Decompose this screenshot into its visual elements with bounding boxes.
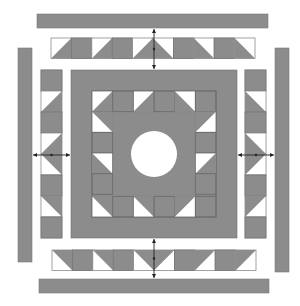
arrowhead-icon bbox=[152, 29, 156, 33]
half-square-triangle bbox=[153, 38, 173, 58]
arrowhead-icon bbox=[238, 153, 242, 157]
arrowhead-icon bbox=[66, 153, 70, 157]
half-square-triangle bbox=[133, 91, 154, 112]
join-point-icon bbox=[153, 257, 155, 259]
half-square-triangle bbox=[245, 133, 266, 154]
half-square-triangle bbox=[41, 196, 62, 217]
half-square-triangle bbox=[245, 154, 266, 175]
half-square-triangle bbox=[134, 250, 154, 270]
arrowhead-icon bbox=[152, 65, 156, 69]
half-square-triangle bbox=[235, 38, 255, 58]
half-square-triangle bbox=[52, 250, 72, 270]
half-square-triangle bbox=[93, 250, 113, 270]
solid-square bbox=[41, 217, 62, 238]
solid-square bbox=[215, 250, 235, 270]
half-square-triangle bbox=[195, 153, 216, 174]
left-border-bar bbox=[18, 48, 32, 262]
half-square-triangle bbox=[175, 196, 196, 217]
solid-square bbox=[245, 175, 266, 196]
right-border-bar bbox=[275, 48, 289, 272]
solid-square bbox=[245, 217, 266, 238]
center-block bbox=[71, 70, 237, 238]
solid-square bbox=[214, 38, 234, 58]
solid-square bbox=[72, 250, 92, 270]
half-square-triangle bbox=[92, 196, 113, 217]
solid-square bbox=[112, 38, 132, 58]
half-square-triangle bbox=[245, 91, 266, 112]
solid-square bbox=[245, 70, 266, 91]
bottom-border-bar bbox=[39, 279, 269, 293]
join-point-icon bbox=[255, 154, 257, 156]
solid-square bbox=[174, 250, 194, 270]
half-square-triangle bbox=[133, 38, 153, 58]
solid-square bbox=[41, 112, 62, 133]
half-square-triangle bbox=[92, 112, 113, 133]
solid-square bbox=[173, 38, 193, 58]
center-circle bbox=[131, 131, 177, 177]
half-square-triangle bbox=[245, 196, 266, 217]
solid-square bbox=[113, 250, 133, 270]
half-square-triangle bbox=[194, 38, 214, 58]
join-point-icon bbox=[153, 48, 155, 50]
arrowhead-icon bbox=[152, 274, 156, 278]
half-square-triangle bbox=[92, 91, 113, 112]
half-square-triangle bbox=[175, 91, 196, 112]
arrowhead-icon bbox=[152, 239, 156, 243]
solid-square bbox=[41, 70, 62, 91]
arrowhead-icon bbox=[33, 153, 37, 157]
solid-square bbox=[71, 38, 91, 58]
half-square-triangle bbox=[41, 91, 62, 112]
half-square-triangle bbox=[51, 38, 71, 58]
top-pieced-strip bbox=[51, 38, 255, 58]
half-square-triangle bbox=[236, 250, 256, 270]
solid-square bbox=[41, 175, 62, 196]
half-square-triangle bbox=[92, 153, 113, 174]
join-point-icon bbox=[50, 154, 52, 156]
half-square-triangle bbox=[154, 250, 174, 270]
arrowhead-icon bbox=[270, 153, 274, 157]
half-square-triangle bbox=[195, 250, 215, 270]
solid-square bbox=[245, 112, 266, 133]
half-square-triangle bbox=[133, 196, 154, 217]
half-square-triangle bbox=[41, 133, 62, 154]
half-square-triangle bbox=[92, 38, 112, 58]
half-square-triangle bbox=[41, 154, 62, 175]
top-border-bar bbox=[37, 14, 268, 28]
quilt-assembly-diagram bbox=[0, 0, 300, 306]
half-square-triangle bbox=[195, 112, 216, 133]
